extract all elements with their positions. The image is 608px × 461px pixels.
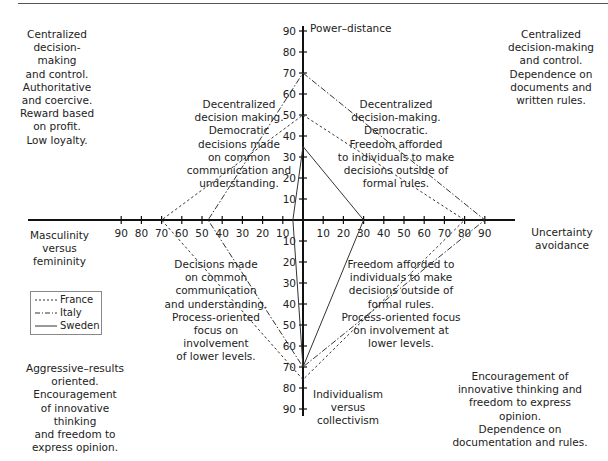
svg-text:90: 90 (283, 25, 296, 37)
svg-text:60: 60 (418, 227, 431, 239)
axis-label-individualism: Individualism versus collectivism (308, 388, 388, 428)
axis-label-power-distance: Power–distance (310, 22, 392, 35)
svg-text:50: 50 (283, 319, 296, 331)
note-upper-right: Decentralized decision-making. Democrati… (335, 98, 457, 190)
svg-text:70: 70 (155, 227, 168, 239)
svg-text:50: 50 (397, 227, 410, 239)
svg-text:90: 90 (478, 227, 491, 239)
svg-text:10: 10 (276, 227, 289, 239)
svg-text:10: 10 (283, 193, 296, 205)
svg-text:40: 40 (377, 227, 390, 239)
svg-text:20: 20 (283, 256, 296, 268)
solid-line-icon (35, 323, 57, 329)
legend-item-sweden: Sweden (35, 319, 100, 332)
note-bottom-right: Encouragement of innovative thinking and… (450, 370, 590, 449)
note-top-left: Centralized decision-making and control.… (14, 28, 100, 147)
note-lower-right: Freedom afforded to individuals to make … (340, 258, 462, 350)
svg-text:60: 60 (175, 227, 188, 239)
svg-text:20: 20 (337, 227, 350, 239)
legend-label-france: France (60, 294, 93, 305)
svg-text:10: 10 (317, 227, 330, 239)
svg-text:60: 60 (283, 340, 296, 352)
legend-label-italy: Italy (60, 307, 82, 318)
legend: France Italy Sweden (30, 291, 102, 335)
svg-text:70: 70 (283, 67, 296, 79)
svg-text:50: 50 (195, 227, 208, 239)
dotted-line-icon (35, 297, 57, 303)
svg-text:40: 40 (283, 298, 296, 310)
svg-text:20: 20 (256, 227, 269, 239)
axis-label-uncertainty-avoidance: Uncertainty avoidance (522, 226, 602, 252)
note-lower-left: Decisions made on common communication a… (160, 258, 272, 364)
legend-item-italy: Italy (35, 306, 82, 319)
svg-text:80: 80 (283, 382, 296, 394)
axis-label-masculinity: Masculinity versus femininity (22, 229, 97, 269)
svg-text:80: 80 (283, 46, 296, 58)
svg-text:70: 70 (283, 361, 296, 373)
legend-item-france: France (35, 293, 93, 306)
svg-text:90: 90 (283, 403, 296, 415)
svg-text:40: 40 (216, 227, 229, 239)
svg-text:30: 30 (357, 227, 370, 239)
note-upper-left: Decentralized decision making. Democrati… (185, 98, 293, 190)
legend-label-sweden: Sweden (60, 320, 100, 331)
svg-text:90: 90 (115, 227, 128, 239)
svg-text:30: 30 (283, 277, 296, 289)
svg-text:70: 70 (438, 227, 451, 239)
note-bottom-left: Aggressive–results oriented. Encourageme… (20, 362, 130, 454)
svg-text:30: 30 (236, 227, 249, 239)
note-top-right: Centralized decision-making and control.… (506, 28, 596, 107)
svg-text:80: 80 (135, 227, 148, 239)
dash-dot-line-icon (35, 310, 57, 316)
